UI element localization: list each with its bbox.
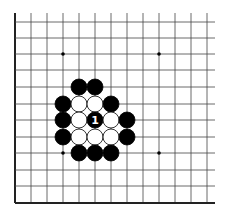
go-board: 1 — [0, 0, 230, 216]
black-stone — [55, 96, 71, 112]
black-stone — [71, 145, 87, 161]
black-stone — [119, 129, 135, 145]
stones: 1 — [55, 79, 135, 161]
star-point-icon — [157, 151, 161, 155]
black-stone — [87, 79, 103, 95]
black-stone — [55, 112, 71, 128]
black-stone — [103, 145, 119, 161]
star-point-icon — [157, 52, 161, 56]
black-stone — [87, 145, 103, 161]
move-number-label: 1 — [91, 114, 99, 127]
black-stone — [119, 112, 135, 128]
white-stone — [71, 129, 87, 145]
white-stone — [87, 96, 103, 112]
black-stone — [55, 129, 71, 145]
black-stone — [71, 79, 87, 95]
star-point-icon — [61, 52, 65, 56]
white-stone — [71, 96, 87, 112]
black-stone — [103, 96, 119, 112]
white-stone — [71, 112, 87, 128]
white-stone — [103, 112, 119, 128]
white-stone — [87, 129, 103, 145]
star-point-icon — [61, 151, 65, 155]
white-stone — [103, 129, 119, 145]
